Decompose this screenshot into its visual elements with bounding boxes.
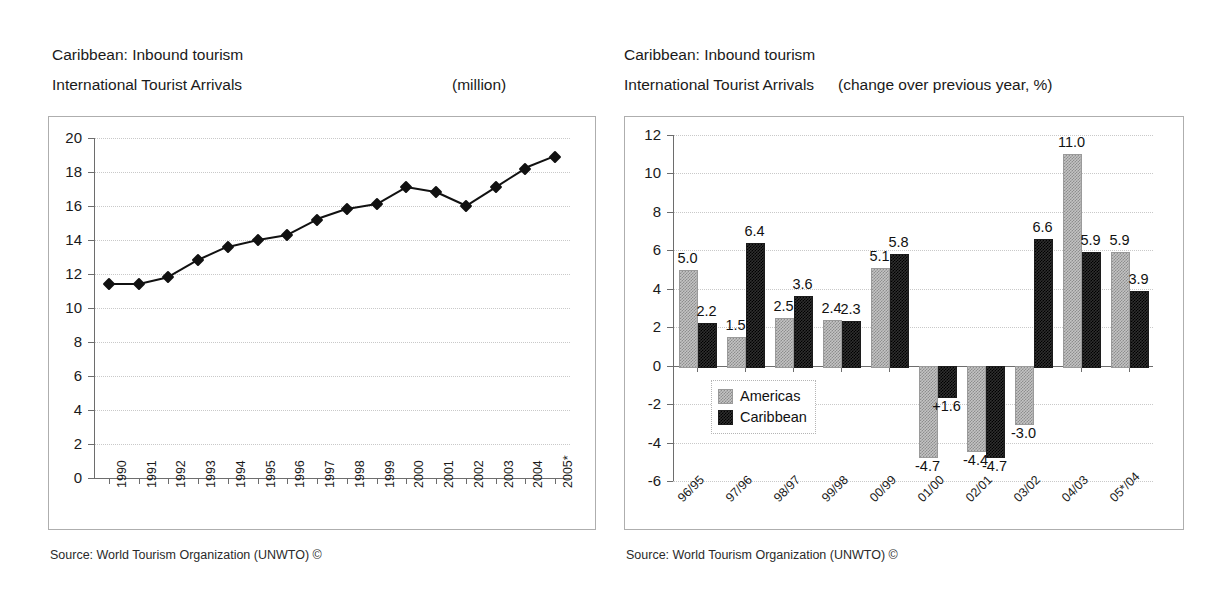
x-tick bbox=[198, 478, 199, 484]
bar-value-label: 6.6 bbox=[1021, 220, 1065, 235]
bar-value-label: 3.9 bbox=[1117, 272, 1161, 287]
legend-item-americas[interactable]: Americas bbox=[718, 386, 807, 407]
y-axis-label: 8 bbox=[42, 334, 82, 349]
bar-caribbean bbox=[938, 366, 957, 399]
left-chart-title-line2: International Tourist Arrivals bbox=[52, 76, 242, 94]
left-chart-unit-label: (million) bbox=[452, 76, 506, 94]
bar-caribbean bbox=[1082, 252, 1101, 367]
data-point-marker bbox=[103, 278, 116, 291]
x-tick bbox=[466, 478, 467, 484]
y-axis-label: 0 bbox=[42, 470, 82, 485]
bar-chart-legend: Americas Caribbean bbox=[711, 380, 816, 434]
bar-caribbean bbox=[746, 243, 765, 368]
bar-americas bbox=[727, 337, 746, 368]
y-axis-label: -2 bbox=[621, 396, 661, 411]
x-axis-label: 2001 bbox=[442, 460, 456, 488]
x-axis-label: 1992 bbox=[174, 460, 188, 488]
bar-americas bbox=[1111, 252, 1130, 367]
data-point-marker bbox=[132, 278, 145, 291]
bar-value-label: 2.3 bbox=[829, 302, 873, 317]
x-axis-label: 02/01 bbox=[963, 473, 995, 505]
right-chart-title-line2: International Tourist Arrivals bbox=[624, 76, 814, 94]
y-gridline bbox=[94, 138, 570, 139]
y-axis-label: 4 bbox=[42, 402, 82, 417]
x-tick bbox=[406, 478, 407, 484]
legend-label-caribbean: Caribbean bbox=[740, 409, 807, 425]
y-axis-label: 2 bbox=[42, 436, 82, 451]
x-axis-label: 1990 bbox=[115, 460, 129, 488]
x-axis-label: 96/95 bbox=[675, 473, 707, 505]
bar-caribbean bbox=[794, 296, 813, 367]
x-axis-label: 1991 bbox=[145, 460, 159, 488]
x-tick bbox=[168, 478, 169, 484]
bar-value-label: +1.6 bbox=[925, 399, 969, 414]
x-tick bbox=[347, 478, 348, 484]
y-axis-label: -6 bbox=[621, 473, 661, 488]
data-point-marker bbox=[251, 234, 264, 247]
y-gridline bbox=[94, 410, 570, 411]
y-axis-line bbox=[673, 135, 674, 481]
bar-americas bbox=[1015, 366, 1034, 426]
data-point-marker bbox=[341, 203, 354, 216]
x-axis-label: 03/02 bbox=[1011, 473, 1043, 505]
y-gridline bbox=[94, 308, 570, 309]
bar-value-label: 5.0 bbox=[666, 251, 710, 266]
x-axis-label: 1999 bbox=[383, 460, 397, 488]
bar-caribbean bbox=[698, 323, 717, 367]
bar-caribbean bbox=[1034, 239, 1053, 368]
data-point-marker bbox=[549, 150, 562, 163]
y-axis-label: 0 bbox=[621, 358, 661, 373]
y-gridline bbox=[94, 172, 570, 173]
right-chart-title-line1: Caribbean: Inbound tourism bbox=[624, 46, 815, 64]
x-axis-label: 2004 bbox=[531, 460, 545, 488]
y-tick bbox=[667, 481, 673, 482]
bar-value-label: -4.7 bbox=[906, 459, 950, 474]
x-tick bbox=[139, 478, 140, 484]
legend-swatch-americas bbox=[718, 389, 733, 404]
left-chart-title-line1: Caribbean: Inbound tourism bbox=[52, 46, 243, 64]
bar-value-label: 3.6 bbox=[781, 277, 825, 292]
right-source-note: Source: World Tourism Organization (UNWT… bbox=[626, 548, 898, 562]
left-source-note: Source: World Tourism Organization (UNWT… bbox=[50, 548, 322, 562]
y-gridline bbox=[94, 206, 570, 207]
bar-americas bbox=[967, 366, 986, 453]
left-chart-frame: 0246810121416182019901991199219931994199… bbox=[48, 116, 596, 530]
right-chart-unit-label: (change over previous year, %) bbox=[838, 76, 1053, 94]
y-axis-label: 6 bbox=[42, 368, 82, 383]
data-point-marker bbox=[222, 240, 235, 253]
x-axis-label: 1998 bbox=[353, 460, 367, 488]
data-point-marker bbox=[400, 181, 413, 194]
x-tick bbox=[317, 478, 318, 484]
bar-americas bbox=[775, 318, 794, 368]
right-chart-panel: Caribbean: Inbound tourism International… bbox=[610, 0, 1210, 602]
bar-value-label: 5.8 bbox=[877, 235, 921, 250]
bar-americas bbox=[823, 320, 842, 368]
x-tick bbox=[555, 478, 556, 484]
y-axis-label: 8 bbox=[621, 204, 661, 219]
y-axis-label: 2 bbox=[621, 319, 661, 334]
left-chart-panel: Caribbean: Inbound tourism International… bbox=[0, 0, 610, 602]
y-gridline bbox=[673, 443, 1153, 444]
legend-label-americas: Americas bbox=[740, 388, 800, 404]
x-tick bbox=[258, 478, 259, 484]
x-axis-label: 00/99 bbox=[867, 473, 899, 505]
bar-value-label: -3.0 bbox=[1002, 426, 1046, 441]
left-plot-area: 0246810121416182019901991199219931994199… bbox=[94, 138, 570, 478]
bar-caribbean bbox=[1130, 291, 1149, 368]
y-axis-label: 18 bbox=[42, 164, 82, 179]
x-tick bbox=[496, 478, 497, 484]
y-axis-label: 10 bbox=[621, 165, 661, 180]
y-axis-label: 12 bbox=[621, 127, 661, 142]
y-axis-label: 12 bbox=[42, 266, 82, 281]
x-tick bbox=[228, 478, 229, 484]
x-axis-label: 98/97 bbox=[771, 473, 803, 505]
x-axis-label: 1993 bbox=[204, 460, 218, 488]
x-axis-label: 99/98 bbox=[819, 473, 851, 505]
bar-americas bbox=[871, 268, 890, 368]
bar-caribbean bbox=[890, 254, 909, 367]
legend-item-caribbean[interactable]: Caribbean bbox=[718, 407, 807, 428]
x-axis-label: 1997 bbox=[323, 460, 337, 488]
bar-caribbean bbox=[842, 321, 861, 367]
x-axis-label: 2005* bbox=[561, 455, 575, 488]
x-axis-label: 97/96 bbox=[723, 473, 755, 505]
